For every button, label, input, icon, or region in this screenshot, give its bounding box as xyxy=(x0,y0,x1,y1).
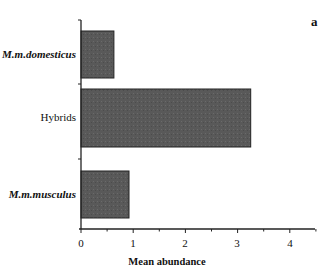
x-tick-3: 3 xyxy=(234,237,240,249)
category-label-hybrids: Hybrids xyxy=(41,111,76,123)
bar-hybrids xyxy=(81,89,251,147)
x-tick-2: 2 xyxy=(182,237,188,249)
category-label-musculus: M.m.musculus xyxy=(9,188,76,200)
x-tick-4: 4 xyxy=(287,237,293,249)
bar-chart xyxy=(0,0,334,280)
bar-domesticus xyxy=(81,31,114,78)
x-axis-label: Mean abundance xyxy=(128,256,205,267)
bar-musculus xyxy=(81,171,129,218)
category-label-domesticus: M.m.domesticus xyxy=(2,48,76,60)
x-tick-1: 1 xyxy=(130,237,136,249)
x-tick-0: 0 xyxy=(78,237,84,249)
